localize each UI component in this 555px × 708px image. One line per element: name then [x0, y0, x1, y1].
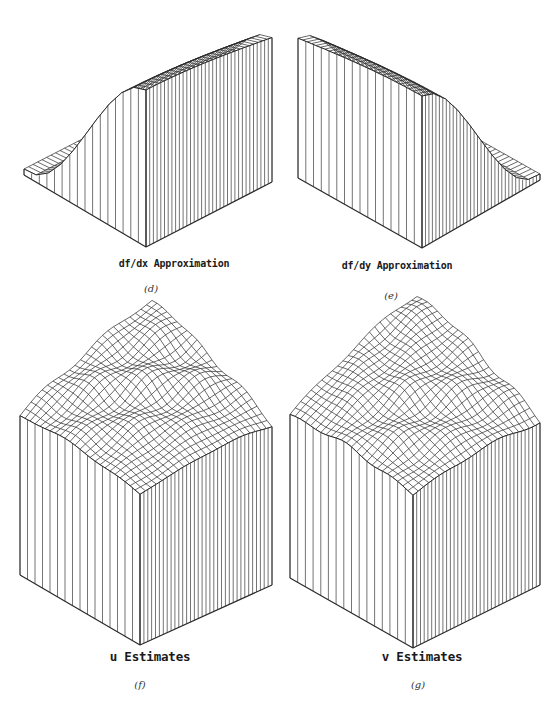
plot-v-estimates: [290, 297, 540, 649]
panel-g-title: v Estimates: [382, 649, 463, 664]
panel-f-caption: (f): [134, 679, 146, 690]
panel-d-caption: (d): [144, 283, 158, 294]
panel-f-title: u Estimates: [110, 649, 191, 664]
plot-u-estimates: [20, 300, 272, 645]
plot-df-dx-approximation: [24, 35, 272, 247]
plot-df-dy-approximation: [298, 36, 540, 249]
panel-e-title: df/dy Approximation: [342, 260, 453, 271]
panel-e-caption: (e): [384, 290, 398, 301]
panel-g-caption: (g): [411, 679, 425, 690]
panel-d-title: df/dx Approximation: [119, 258, 230, 269]
figure-plots-canvas: [0, 0, 555, 708]
